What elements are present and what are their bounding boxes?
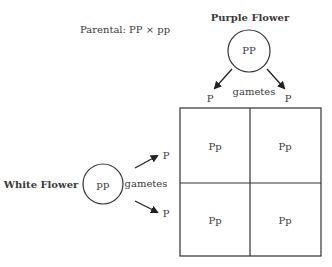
white-gamete-bottom: P bbox=[163, 209, 170, 219]
purple-gamete-right: P bbox=[285, 94, 292, 104]
white-gamete-arrow-top bbox=[135, 156, 157, 168]
purple-gametes-label: gametes bbox=[233, 87, 276, 97]
punnett-cell-1-0: Pp bbox=[208, 216, 221, 226]
parental-cross-label: Parental: PP × pp bbox=[80, 25, 170, 35]
purple-parent-title: Purple Flower bbox=[211, 13, 290, 23]
purple-gamete-left: P bbox=[207, 94, 214, 104]
punnett-cell-0-0: Pp bbox=[208, 142, 221, 152]
purple-parent-genotype: PP bbox=[242, 46, 255, 56]
white-gamete-arrow-bottom bbox=[135, 201, 157, 212]
white-parent-genotype: pp bbox=[97, 180, 110, 190]
punnett-cell-0-1: Pp bbox=[278, 142, 291, 152]
white-gamete-top: P bbox=[163, 151, 170, 161]
white-gametes-label: gametes bbox=[125, 179, 168, 189]
diagram-lines bbox=[0, 0, 332, 267]
punnett-cell-1-1: Pp bbox=[278, 216, 291, 226]
white-parent-title: White Flower bbox=[4, 180, 79, 190]
purple-gamete-arrow-left bbox=[215, 69, 232, 88]
